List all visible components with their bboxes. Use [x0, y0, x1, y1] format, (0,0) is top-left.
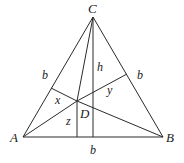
triangle-diagram: C A B D b b b h x y z — [0, 0, 184, 163]
point-label-d: D — [79, 106, 90, 121]
segment-cd — [77, 17, 93, 101]
label-z: z — [65, 114, 71, 128]
label-x: x — [54, 93, 61, 107]
segment-bd — [77, 101, 163, 137]
side-label-left: b — [42, 68, 48, 82]
vertex-label-b: B — [166, 130, 174, 145]
perpendicular-y — [77, 74, 127, 101]
side-label-bottom: b — [90, 143, 96, 157]
label-y: y — [106, 83, 113, 97]
vertex-label-c: C — [88, 1, 97, 16]
vertex-label-a: A — [9, 130, 18, 145]
side-label-right: b — [137, 68, 143, 82]
side-bc — [93, 17, 163, 137]
label-h: h — [97, 60, 103, 74]
